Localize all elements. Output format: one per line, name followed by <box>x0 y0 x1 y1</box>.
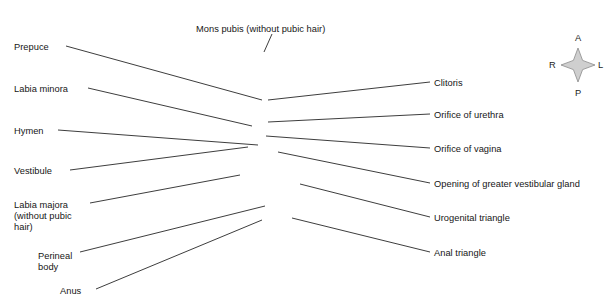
anal-triangle-leader <box>292 218 430 252</box>
orientation-compass <box>561 48 595 82</box>
anus-leader <box>96 220 262 289</box>
clitoris-leader <box>268 82 430 100</box>
perineal-body-leader <box>80 206 265 252</box>
mons-pubis-leader <box>264 34 272 52</box>
greater-vestibular-leader <box>278 152 430 183</box>
leader-lines <box>0 0 612 306</box>
anatomy-figure: Mons pubis (without pubic hair) Prepuce … <box>0 0 612 306</box>
labia-majora-leader <box>90 175 240 203</box>
orifice-urethra-leader <box>268 114 430 122</box>
hymen-leader <box>58 130 258 145</box>
urogenital-triangle-leader <box>300 184 430 217</box>
prepuce-leader <box>66 46 262 100</box>
labia-minora-leader <box>88 88 252 126</box>
vestibule-leader <box>70 147 248 170</box>
orifice-vagina-leader <box>266 136 430 148</box>
